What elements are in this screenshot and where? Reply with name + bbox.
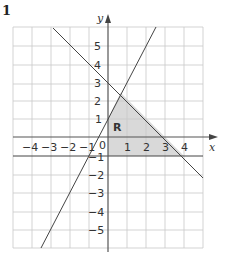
svg-text:2: 2 bbox=[143, 141, 150, 154]
graph: 1 x y −4 −3 −2 bbox=[0, 0, 226, 261]
svg-text:−4: −4 bbox=[22, 141, 38, 154]
svg-text:−4: −4 bbox=[88, 206, 104, 219]
x-axis-label: x bbox=[209, 141, 216, 154]
svg-text:3: 3 bbox=[162, 141, 169, 154]
svg-text:4: 4 bbox=[181, 141, 188, 154]
region-label: R bbox=[113, 121, 122, 134]
question-number: 1 bbox=[2, 3, 11, 18]
svg-text:5: 5 bbox=[94, 40, 101, 53]
y-axis-label: y bbox=[96, 12, 104, 25]
svg-text:2: 2 bbox=[94, 95, 101, 108]
svg-text:−5: −5 bbox=[88, 224, 104, 237]
svg-text:3: 3 bbox=[94, 77, 101, 90]
svg-text:−2: −2 bbox=[88, 169, 104, 182]
svg-text:1: 1 bbox=[124, 141, 131, 154]
svg-text:−1: −1 bbox=[88, 151, 104, 164]
svg-text:−3: −3 bbox=[88, 187, 104, 200]
svg-text:−3: −3 bbox=[41, 141, 57, 154]
svg-text:−2: −2 bbox=[60, 141, 76, 154]
x-axis-arrow-icon bbox=[209, 134, 218, 140]
svg-text:1: 1 bbox=[95, 113, 102, 126]
y-axis-arrow-icon bbox=[105, 14, 111, 23]
svg-text:4: 4 bbox=[94, 59, 101, 72]
x-tick-labels: −4 −3 −2 −1 0 1 2 3 4 bbox=[22, 139, 188, 154]
